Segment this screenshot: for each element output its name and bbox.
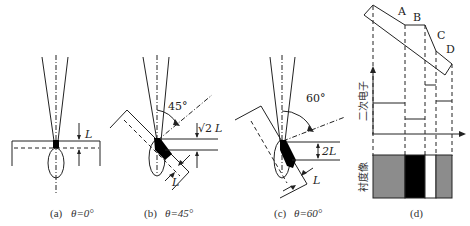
surface-label-C: C — [437, 29, 445, 42]
depth-label-b-var: L — [214, 122, 222, 135]
depth-label-b-sqrt: √2 — [198, 122, 212, 135]
surface-label-B: B — [413, 11, 421, 24]
angle-label-b: 45° — [168, 100, 188, 113]
contrast-block-C — [425, 155, 436, 198]
emission-region — [53, 140, 59, 148]
depth-label-c-bottom: L — [312, 174, 320, 187]
contrast-block-A — [373, 155, 405, 198]
y-axis-arrow-icon — [370, 66, 376, 73]
depth-label-c-top: 2L — [321, 145, 336, 158]
axis-label-secondary-electrons: 二次电子 — [357, 81, 369, 121]
contrast-block-D — [436, 155, 452, 198]
caption-d: (d) — [410, 207, 423, 220]
caption-c-theta: θ=60° — [294, 207, 323, 219]
contrast-image — [373, 155, 452, 198]
caption-c-prefix: (c) — [274, 207, 287, 220]
contrast-block-B — [405, 155, 425, 198]
figure-canvas: L 45° √2 L L — [0, 0, 470, 226]
panel-d — [364, 5, 466, 156]
x-axis-arrow-icon — [459, 131, 466, 137]
angle-label-c: 60° — [306, 92, 326, 105]
surface-label-D: D — [446, 43, 455, 56]
caption-b-prefix: (b) — [144, 207, 157, 220]
caption-a-theta: θ=0° — [71, 207, 94, 219]
beam-left-edge — [42, 57, 54, 141]
beam-right-edge — [58, 57, 68, 141]
surface-label-A: A — [397, 5, 407, 18]
caption-b-theta: θ=45° — [165, 207, 194, 219]
panel-c — [235, 55, 345, 198]
caption-a-prefix: (a) — [50, 207, 63, 220]
panel-a — [12, 55, 100, 195]
axis-label-contrast-image: 衬度像 — [357, 162, 369, 192]
depth-label-b-bottom: L — [171, 176, 179, 189]
depth-label-a: L — [84, 128, 92, 141]
